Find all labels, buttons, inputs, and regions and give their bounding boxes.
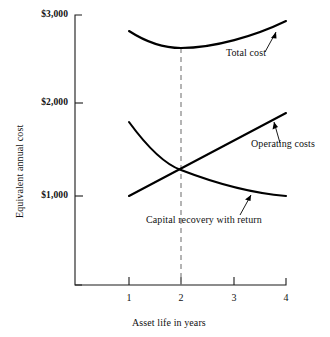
x-tick-label-1: 1 <box>121 292 137 303</box>
y-tick-label-1000: $1,000 <box>18 190 68 200</box>
x-tick-label-2: 2 <box>173 292 189 303</box>
y-tick-label-2000: $2,000 <box>18 97 68 107</box>
x-tick-label-3: 3 <box>226 292 242 303</box>
series-label-total-cost: Total cost <box>226 47 266 58</box>
capital-recovery-arrow-icon <box>245 195 251 201</box>
series-curve-total-cost <box>129 21 286 48</box>
y-axis <box>75 15 82 285</box>
series-label-capital-recovery: Capital recovery with return <box>146 214 262 225</box>
x-tick-label-4: 4 <box>278 292 294 303</box>
series-label-operating-costs: Operating costs <box>251 138 315 149</box>
y-axis-title: Equivalent annual cost <box>14 125 25 218</box>
operating-costs-arrow-icon <box>273 122 279 130</box>
series-line-operating-costs <box>129 113 286 196</box>
chart-figure: $3,000 $2,000 $1,000 1 2 3 4 Asset life … <box>0 0 330 337</box>
series-curve-capital-recovery <box>129 122 286 196</box>
x-axis-title: Asset life in years <box>132 317 206 328</box>
chart-plot-area <box>0 0 330 337</box>
y-tick-label-3000: $3,000 <box>18 9 68 19</box>
total-cost-arrow-icon <box>271 32 277 39</box>
